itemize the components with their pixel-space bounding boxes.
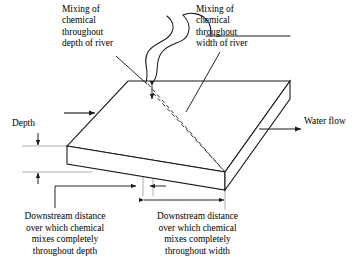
label-mixing-width: Mixing of chemical throughout width of r… [196, 4, 248, 50]
river-mixing-diagram: Mixing of chemical throughout depth of r… [0, 0, 357, 274]
river-slab-3d [67, 81, 290, 190]
label-mixing-depth: Mixing of chemical throughout depth of r… [62, 4, 113, 50]
label-water-flow: Water flow [304, 116, 346, 127]
caption-downstream-width: Downstream distance over which chemical … [131, 211, 264, 257]
leader-downstream-depth [55, 186, 136, 208]
caption-downstream-depth: Downstream distance over which chemical … [2, 211, 128, 257]
leader-downstream-depth-path [55, 186, 136, 208]
river-bank-right [154, 15, 189, 81]
river-bank-left [146, 16, 174, 82]
label-depth: Depth [12, 118, 35, 129]
leader-mixing-depth [116, 56, 147, 84]
